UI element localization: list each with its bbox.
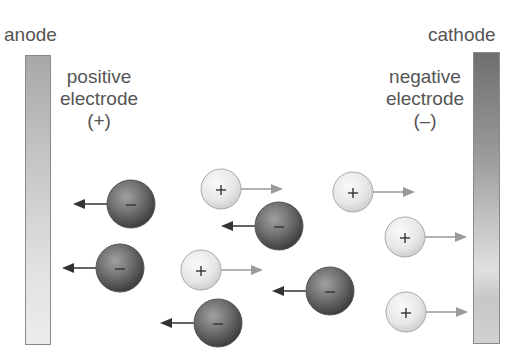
anion-sphere bbox=[107, 180, 155, 228]
anion-ion bbox=[73, 180, 155, 228]
anion-sphere bbox=[306, 267, 354, 315]
ion-group bbox=[62, 169, 468, 347]
right-arrow-icon bbox=[373, 187, 415, 197]
right-arrow-icon bbox=[425, 232, 467, 242]
left-arrow-icon bbox=[73, 199, 107, 209]
right-arrow-icon bbox=[426, 307, 468, 317]
right-arrow-icon bbox=[241, 184, 283, 194]
left-arrow-icon bbox=[160, 318, 194, 328]
cation-ion bbox=[181, 250, 263, 290]
anion-ion bbox=[221, 202, 303, 250]
cation-ion bbox=[333, 172, 415, 212]
left-arrow-icon bbox=[62, 263, 96, 273]
cation-ion bbox=[386, 292, 468, 332]
anion-sphere bbox=[194, 299, 242, 347]
left-arrow-icon bbox=[272, 286, 306, 296]
anion-ion bbox=[160, 299, 242, 347]
right-arrow-icon bbox=[221, 265, 263, 275]
anion-ion bbox=[62, 244, 144, 292]
anion-ion bbox=[272, 267, 354, 315]
anion-sphere bbox=[96, 244, 144, 292]
anion-sphere bbox=[255, 202, 303, 250]
ions-layer bbox=[0, 0, 519, 361]
cation-ion bbox=[385, 217, 467, 257]
left-arrow-icon bbox=[221, 221, 255, 231]
